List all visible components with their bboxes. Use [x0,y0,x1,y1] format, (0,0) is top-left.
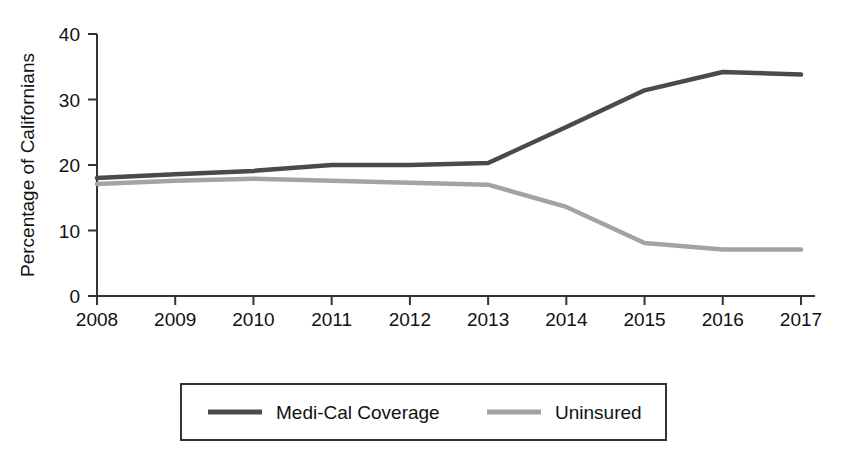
y-tick-label: 10 [59,221,80,242]
legend-label: Medi-Cal Coverage [276,402,440,423]
x-tick-label: 2017 [780,309,822,330]
chart-svg: Percentage of Californians 0 10 20 30 40… [0,0,849,475]
series-line-uninsured [97,179,801,250]
x-tick-label: 2009 [154,309,196,330]
x-axis-ticks [97,296,801,305]
x-tick-label: 2011 [311,309,352,330]
x-tick-label: 2008 [76,309,118,330]
x-tick-label: 2016 [702,309,744,330]
x-tick-label: 2014 [545,309,588,330]
y-tick-label: 40 [59,24,80,45]
x-tick-label: 2015 [623,309,665,330]
x-tick-label: 2012 [389,309,431,330]
line-chart: Percentage of Californians 0 10 20 30 40… [0,0,849,475]
series-line-medi-cal-coverage [97,72,801,178]
series-group [97,72,801,250]
legend-label: Uninsured [555,402,642,423]
y-tick-label: 0 [69,286,80,307]
x-tick-label: 2010 [232,309,274,330]
x-tick-label: 2013 [467,309,509,330]
y-axis-ticks [88,34,97,296]
y-axis-tick-labels: 0 10 20 30 40 [59,24,80,307]
y-axis-label: Percentage of Californians [17,53,38,277]
y-tick-label: 30 [59,90,80,111]
x-axis-tick-labels: 2008200920102011201220132014201520162017 [76,309,822,330]
y-tick-label: 20 [59,155,80,176]
